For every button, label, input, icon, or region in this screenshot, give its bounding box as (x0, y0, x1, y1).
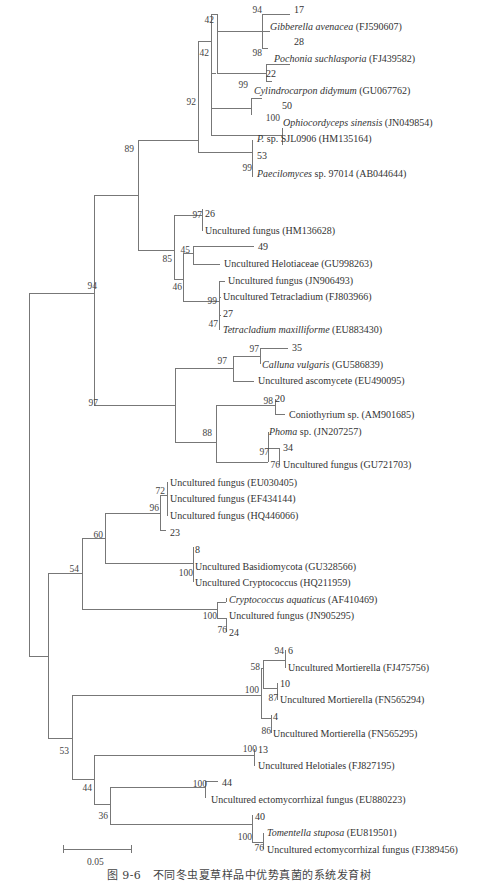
leaf-label: Uncultured Basidiomycota (GU328566) (195, 562, 356, 572)
leaf-label: Uncultured ascomycete (EU490095) (258, 376, 405, 386)
bootstrap-value: 97 (89, 398, 99, 408)
figure-caption: 图 9-6 不同冬虫夏草样品中优势真菌的系统发育树 (0, 866, 478, 882)
leaf-label: Uncultured fungus (HQ446066) (170, 511, 298, 521)
leaf-label: Uncultured fungus (EF434144) (170, 494, 296, 504)
bootstrap-value: 100 (266, 113, 280, 123)
leaf-label: Uncultured Mortierella (FN565295) (273, 729, 417, 739)
tree-branches (0, 0, 478, 888)
leaf-label: Uncultured Helotiales (FJ827195) (258, 761, 395, 771)
bootstrap-value: 88 (203, 428, 213, 438)
bootstrap-value: 58 (251, 662, 261, 672)
leaf-label: Uncultured Mortierella (FN565294) (280, 695, 424, 705)
leaf-label: 26 (205, 209, 215, 219)
bootstrap-value: 44 (83, 783, 93, 793)
leaf-label: P. sp. SJL0906 (HM135164) (257, 134, 372, 144)
leaf-label: Cryptococcus aquaticus (AF410469) (229, 595, 377, 605)
leaf-label: 34 (283, 443, 293, 453)
bootstrap-value: 94 (253, 5, 263, 15)
leaf-label: 10 (280, 679, 290, 689)
leaf-label: Tetracladium maxilliforme (EU883430) (223, 325, 382, 335)
leaf-label: 44 (222, 778, 232, 788)
leaf-label: Coniothyrium sp. (AM901685) (289, 410, 414, 420)
bootstrap-value: 97 (250, 344, 260, 354)
bootstrap-value: 60 (94, 530, 104, 540)
leaf-label: 28 (294, 37, 304, 47)
bootstrap-value: 99 (243, 163, 253, 173)
bootstrap-value: 47 (209, 319, 219, 329)
leaf-label: 24 (229, 628, 239, 638)
leaf-label: Paecilomyces sp. 97014 (AB044644) (257, 169, 406, 179)
bootstrap-value: 92 (187, 97, 197, 107)
leaf-label: Gibberella avenacea (FJ590607) (270, 22, 402, 32)
bootstrap-value: 100 (193, 779, 207, 789)
bootstrap-value: 86 (262, 726, 272, 736)
bootstrap-value: 42 (205, 15, 215, 25)
bootstrap-value: 85 (163, 254, 173, 264)
leaf-label: 4 (273, 712, 278, 722)
bootstrap-value: 87 (269, 693, 279, 703)
leaf-label: Ophiocordyceps sinensis (JN049854) (283, 118, 433, 128)
leaf-label: Phoma sp. (JN207257) (269, 427, 362, 437)
bootstrap-value: 94 (88, 281, 98, 291)
phylogenetic-tree-figure: 17Gibberella avenacea (FJ590607)28Pochon… (0, 0, 478, 888)
bootstrap-value: 72 (156, 486, 166, 496)
bootstrap-value: 98 (253, 48, 263, 58)
leaf-label: 27 (223, 309, 233, 319)
leaf-label: Uncultured ectomycorrhizal fungus (EU880… (211, 795, 406, 805)
bootstrap-value: 54 (70, 564, 80, 574)
leaf-label: 50 (282, 101, 292, 111)
leaf-label: 40 (255, 812, 265, 822)
bootstrap-value: 96 (150, 503, 160, 513)
bootstrap-value: 46 (173, 282, 183, 292)
leaf-label: Uncultured fungus (EU030405) (170, 478, 297, 488)
leaf-label: 49 (258, 242, 268, 252)
bootstrap-value: 89 (125, 144, 135, 154)
bootstrap-value: 45 (181, 245, 191, 255)
leaf-label: 8 (195, 545, 200, 555)
bootstrap-value: 100 (243, 744, 257, 754)
leaf-label: 53 (257, 151, 267, 161)
leaf-label: Uncultured ectomycorrhizal fungus (FJ389… (267, 845, 458, 855)
leaf-label: Cylindrocarpon didymum (GU067762) (254, 86, 410, 96)
leaf-label: 23 (170, 528, 180, 538)
bootstrap-value: 97 (260, 447, 270, 457)
leaf-label: 13 (258, 745, 268, 755)
bootstrap-value: 94 (275, 646, 285, 656)
bootstrap-value: 98 (264, 396, 274, 406)
bootstrap-value: 97 (218, 356, 228, 366)
bootstrap-value: 97 (193, 210, 203, 220)
leaf-label: Uncultured fungus (GU721703) (283, 460, 411, 470)
bootstrap-value: 53 (60, 746, 70, 756)
leaf-label: Uncultured fungus (HM136628) (205, 226, 335, 236)
bootstrap-value: 100 (203, 611, 217, 621)
bootstrap-value: 42 (200, 48, 210, 58)
bootstrap-value: 99 (208, 296, 218, 306)
leaf-label: Uncultured fungus (JN906493) (228, 276, 353, 286)
leaf-label: 20 (275, 394, 285, 404)
bootstrap-value: 76 (255, 843, 265, 853)
bootstrap-value: 100 (238, 832, 252, 842)
bootstrap-value: 36 (99, 811, 109, 821)
leaf-label: 22 (266, 69, 276, 79)
bootstrap-value: 99 (239, 80, 249, 90)
leaf-label: Uncultured fungus (JN905295) (229, 611, 354, 621)
bootstrap-value: 76 (218, 625, 228, 635)
leaf-label: Uncultured Mortierella (FJ475756) (288, 663, 429, 673)
leaf-label: Uncultured Tetracladium (FJ803966) (223, 292, 372, 302)
bootstrap-value: 100 (245, 685, 259, 695)
leaf-label: Tomentella stuposa (EU819501) (267, 828, 397, 838)
leaf-label: 17 (294, 5, 304, 15)
leaf-label: Uncultured Helotiaceae (GU998263) (224, 259, 372, 269)
bootstrap-value: 100 (179, 568, 193, 578)
leaf-label: Uncultured Cryptococcus (HQ211959) (195, 578, 351, 588)
leaf-label: 6 (288, 646, 293, 656)
leaf-label: 35 (292, 343, 302, 353)
leaf-label: Pochonia suchlasporia (FJ439582) (274, 54, 415, 64)
bootstrap-value: 76 (271, 460, 281, 470)
leaf-label: Calluna vulgaris (GU586839) (262, 360, 383, 370)
